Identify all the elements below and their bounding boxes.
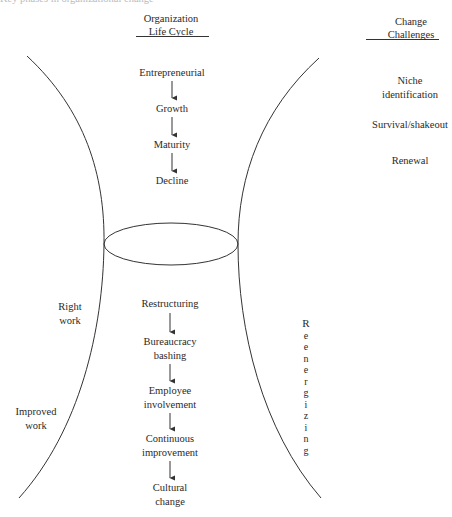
label-improved-work-line2: work (16, 419, 57, 433)
stage-decline: Decline (156, 174, 189, 188)
sequence-cultural-line1: Cultural (153, 481, 187, 495)
heading-challenges-line1: Change (388, 15, 435, 28)
stage-maturity: Maturity (154, 138, 191, 152)
challenge-renewal: Renewal (392, 154, 429, 168)
sequence-continuous-improvement: Continuous improvement (142, 432, 198, 460)
sequence-cultural-line2: change (153, 495, 187, 509)
vertical-letter: e (300, 341, 312, 353)
sequence-restructuring: Restructuring (141, 297, 198, 311)
sequence-employee-involvement: Employee involvement (144, 384, 197, 412)
vertical-letter: z (300, 410, 312, 422)
sequence-cultural-change: Cultural change (153, 481, 187, 509)
stage-entrepreneurial: Entrepreneurial (139, 66, 204, 80)
vertical-letter: R (300, 318, 312, 330)
sequence-bureaucracy-line2: bashing (143, 349, 196, 363)
sequence-continuous-line2: improvement (142, 446, 198, 460)
sequence-employee-line1: Employee (144, 384, 197, 398)
challenge-niche-line2: identification (382, 88, 438, 102)
waist-ellipse (104, 223, 238, 265)
heading-life-cycle-line1: Organization (144, 12, 199, 25)
vertical-letter: i (300, 399, 312, 411)
challenge-niche-line1: Niche (382, 74, 438, 88)
label-right-work-line1: Right (58, 300, 81, 314)
sequence-bureaucracy-line1: Bureaucracy (143, 335, 196, 349)
sequence-continuous-line1: Continuous (142, 432, 198, 446)
challenge-niche: Niche identification (382, 74, 438, 102)
sequence-employee-line2: involvement (144, 398, 197, 412)
vertical-letter: r (300, 376, 312, 388)
label-improved-work: Improved work (16, 405, 57, 433)
heading-challenges-underline (366, 39, 439, 40)
vertical-letter: e (300, 364, 312, 376)
sequence-bureaucracy-bashing: Bureaucracy bashing (143, 335, 196, 363)
challenge-survival: Survival/shakeout (372, 118, 448, 132)
stage-growth: Growth (156, 102, 188, 116)
vertical-letter: g (300, 445, 312, 457)
vertical-letter: e (300, 330, 312, 342)
heading-life-cycle: Organization Life Cycle (144, 12, 199, 38)
label-improved-work-line1: Improved (16, 405, 57, 419)
vertical-letter: n (300, 433, 312, 445)
label-right-work-line2: work (58, 314, 81, 328)
vertical-letter: i (300, 422, 312, 434)
label-right-work: Right work (58, 300, 81, 328)
vertical-letter: n (300, 353, 312, 365)
vertical-letter: g (300, 387, 312, 399)
heading-change-challenges: Change Challenges (388, 15, 435, 41)
heading-life-cycle-underline (136, 36, 209, 37)
label-reenergizing-vertical: Reenergizing (300, 318, 312, 456)
